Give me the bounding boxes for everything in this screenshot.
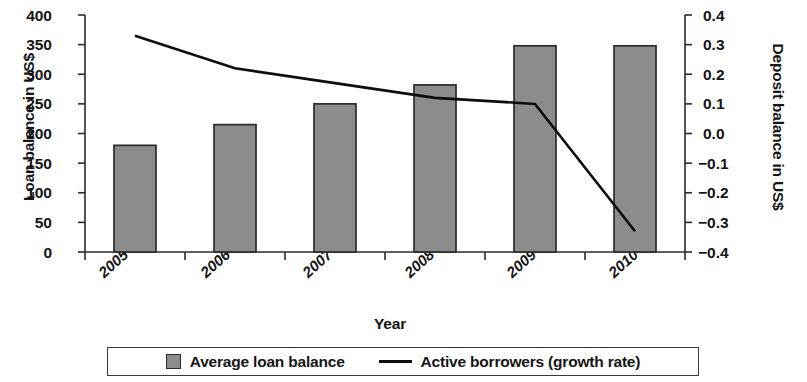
legend-item-active-borrowers: Active borrowers (growth rate) — [379, 353, 641, 371]
bar-2005 — [114, 145, 156, 252]
legend-item-average-loan-balance: Average loan balance — [166, 353, 345, 371]
bar-2006 — [214, 125, 256, 252]
chart-figure: Loan balance in US$ Deposit balance in U… — [0, 0, 807, 382]
bar-2009 — [514, 46, 556, 252]
bar-2010 — [614, 46, 656, 252]
axis-lines-group — [78, 15, 692, 260]
legend-line-stroke-icon — [379, 360, 412, 363]
legend-label-active-borrowers: Active borrowers (growth rate) — [421, 353, 641, 371]
growth-rate-line — [135, 36, 635, 232]
legend-label-average-loan-balance: Average loan balance — [190, 353, 345, 371]
legend-square-swatch-icon — [166, 354, 181, 369]
bar-series-group — [114, 46, 656, 252]
bar-2007 — [314, 104, 356, 252]
chart-legend: Average loan balance Active borrowers (g… — [107, 347, 699, 376]
plot-canvas — [0, 0, 807, 382]
bar-2008 — [414, 85, 456, 252]
line-series-group — [135, 36, 635, 232]
